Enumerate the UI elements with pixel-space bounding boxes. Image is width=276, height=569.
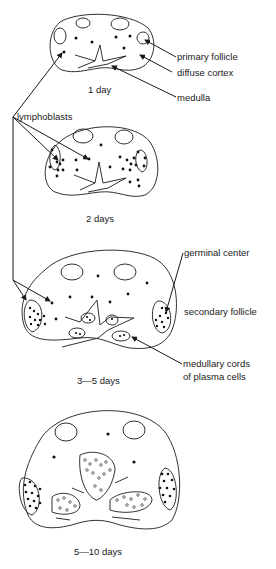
- node-stage-1: [50, 14, 176, 97]
- caption-stage-1: 1 day: [88, 84, 111, 95]
- lymphoblast-pointers: [13, 53, 88, 301]
- caption-stage-2: 2 days: [86, 213, 114, 224]
- label-diffuse-cortex: diffuse cortex: [177, 67, 234, 78]
- caption-stage-3: 3—5 days: [77, 375, 120, 386]
- primary-follicle-shape: [76, 18, 90, 28]
- label-primary-follicle: primary follicle: [177, 51, 238, 62]
- label-medullary-cords: medullary cords: [183, 358, 250, 369]
- plasma-cell-clusters: [57, 459, 147, 512]
- label-germinal-center: germinal center: [184, 247, 249, 258]
- lymph-node-diagram: primary follicle diffuse cortex medulla …: [0, 0, 276, 569]
- node-stage-3: [22, 250, 183, 364]
- caption-stage-4: 5—10 days: [74, 546, 122, 557]
- label-lymphoblasts: lymphoblasts: [17, 111, 73, 122]
- node-stage-2: [45, 127, 158, 197]
- label-secondary-follicle: secondary follicle: [184, 306, 257, 317]
- label-medulla: medulla: [177, 92, 211, 103]
- label-plasma-cells: of plasma cells: [183, 371, 246, 382]
- node-stage-4: [19, 411, 179, 529]
